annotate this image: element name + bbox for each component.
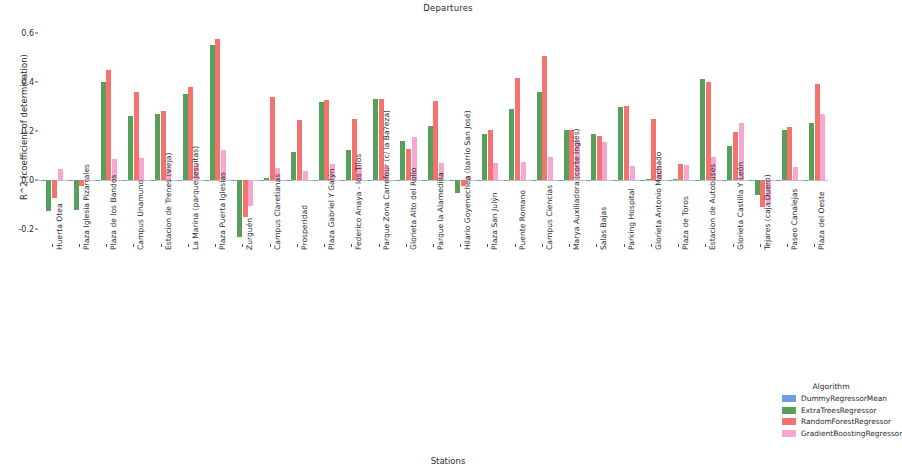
legend-label: DummyRegressorMean xyxy=(801,394,887,403)
x-axis-tick-mark xyxy=(324,244,325,247)
x-axis-tick-mark xyxy=(733,244,734,247)
x-axis-tick-mark xyxy=(542,244,543,247)
bar-DummyRegressorMean xyxy=(177,180,182,181)
bar-RandomForestRegressor xyxy=(624,106,629,181)
x-axis-tick-mark xyxy=(270,244,271,247)
bar-ExtraTreesRegressor xyxy=(673,179,678,180)
x-axis-tick-mark xyxy=(133,244,134,247)
x-axis-tick-mark xyxy=(297,244,298,247)
bar-DummyRegressorMean xyxy=(422,180,427,181)
legend-item[interactable]: RandomForestRegressor xyxy=(782,417,902,426)
x-axis-tick-label: Marya Auxiliadora (corte Inglés) xyxy=(572,128,581,250)
bar-RandomForestRegressor xyxy=(52,180,57,198)
x-axis-tick-mark xyxy=(161,244,162,247)
legend: Algorithm DummyRegressorMeanExtraTreesRe… xyxy=(782,382,902,440)
x-axis-tick-label: Federico Anaya - los Tilos xyxy=(354,154,363,250)
x-axis-tick-label: Puente Romano xyxy=(518,190,527,250)
legend-item[interactable]: DummyRegressorMean xyxy=(782,394,902,403)
x-axis-tick-label: La Marina (parque Jesuitas) xyxy=(191,146,200,250)
bar-DummyRegressorMean xyxy=(667,180,672,181)
bar-DummyRegressorMean xyxy=(722,180,727,181)
x-axis-tick-mark xyxy=(406,244,407,247)
bar-DummyRegressorMean xyxy=(504,180,509,181)
bar-GradientBoostingRegressor xyxy=(58,169,63,181)
bar-DummyRegressorMean xyxy=(286,180,291,181)
bar-ExtraTreesRegressor xyxy=(455,180,460,193)
chart-title: Departures xyxy=(0,3,896,13)
bar-DummyRegressorMean xyxy=(449,180,454,181)
bar-GradientBoostingRegressor xyxy=(793,167,798,180)
x-axis-tick-mark xyxy=(705,244,706,247)
bar-RandomForestRegressor xyxy=(678,164,683,181)
bar-DummyRegressorMean xyxy=(340,180,345,181)
bar-GradientBoostingRegressor xyxy=(248,180,253,206)
x-axis-tick-label: Paseo Canalejas xyxy=(790,188,799,250)
x-axis-tick-mark xyxy=(569,244,570,247)
x-axis-tick-mark xyxy=(433,244,434,247)
bar-ExtraTreesRegressor xyxy=(264,178,269,180)
x-axis-tick-label: Parking Hospital xyxy=(627,188,636,250)
legend-color-swatch xyxy=(782,430,796,437)
x-axis-tick-label: Plaza Puerta Iglesias xyxy=(218,172,227,250)
x-axis-tick-mark xyxy=(760,244,761,247)
legend-item[interactable]: ExtraTreesRegressor xyxy=(782,406,902,415)
bar-ExtraTreesRegressor xyxy=(809,123,814,180)
bar-DummyRegressorMean xyxy=(122,180,127,181)
x-axis-tick-label: Parque Zona Carrefour (c/ la Ba?eza) xyxy=(382,110,391,250)
y-axis-tick-mark xyxy=(35,82,38,83)
x-axis-tick-label: Plaza del Oeste xyxy=(817,191,826,250)
x-axis-tick-mark xyxy=(242,244,243,247)
x-axis-tick-label: Plaza Iglesia Pizarrales xyxy=(82,164,91,250)
bar-ExtraTreesRegressor xyxy=(400,141,405,180)
bar-RandomForestRegressor xyxy=(433,101,438,181)
x-axis-tick-label: Glorieta Castilla Y León xyxy=(736,162,745,250)
y-axis-tick-label: 0.0 xyxy=(21,176,34,185)
x-axis-tick-label: Zurguén xyxy=(245,218,254,250)
bar-DummyRegressorMean xyxy=(558,180,563,181)
bar-GradientBoostingRegressor xyxy=(548,157,553,180)
x-axis-tick-mark xyxy=(379,244,380,247)
bar-DummyRegressorMean xyxy=(231,180,236,181)
bar-ExtraTreesRegressor xyxy=(509,109,514,181)
bar-DummyRegressorMean xyxy=(803,180,808,181)
x-axis-tick-label: Hilario Goyenechea (barrio San José) xyxy=(463,110,472,250)
y-axis-tick-label: 0.4 xyxy=(21,78,34,87)
x-axis-tick-mark xyxy=(460,244,461,247)
bar-ExtraTreesRegressor xyxy=(237,180,242,237)
x-axis-tick-mark xyxy=(79,244,80,247)
bar-GradientBoostingRegressor xyxy=(493,163,498,181)
x-axis-tick-label: Huerta Otea xyxy=(55,203,64,250)
bar-ExtraTreesRegressor xyxy=(646,179,651,180)
bar-ExtraTreesRegressor xyxy=(618,107,623,180)
x-axis-tick-label: Estacion de Trenes (vieja) xyxy=(164,153,173,250)
y-axis-tick-label: 0.2 xyxy=(21,127,34,136)
legend-label: GradientBoostingRegressor xyxy=(801,429,902,438)
bar-ExtraTreesRegressor xyxy=(537,92,542,181)
bar-RandomForestRegressor xyxy=(815,84,820,180)
bar-RandomForestRegressor xyxy=(134,92,139,181)
bar-DummyRegressorMean xyxy=(749,180,754,181)
bar-ExtraTreesRegressor xyxy=(74,180,79,210)
x-axis-tick-label: Plaza de los Bandos xyxy=(109,174,118,250)
y-axis-tick-mark xyxy=(35,33,38,34)
legend-item[interactable]: GradientBoostingRegressor xyxy=(782,429,902,438)
bar-GradientBoostingRegressor xyxy=(602,142,607,180)
y-axis-tick-label: -0.2 xyxy=(18,225,34,234)
bar-RandomForestRegressor xyxy=(488,130,493,180)
x-axis-tick-mark xyxy=(52,244,53,247)
bar-ExtraTreesRegressor xyxy=(183,94,188,180)
x-axis-tick-mark xyxy=(814,244,815,247)
bar-DummyRegressorMean xyxy=(313,180,318,181)
bar-RandomForestRegressor xyxy=(542,56,547,180)
x-axis-label: Stations xyxy=(0,456,896,466)
bar-ExtraTreesRegressor xyxy=(291,152,296,180)
bar-DummyRegressorMean xyxy=(531,180,536,181)
bar-DummyRegressorMean xyxy=(204,180,209,181)
legend-title: Algorithm xyxy=(760,382,902,391)
legend-color-swatch xyxy=(782,395,796,402)
bar-RandomForestRegressor xyxy=(787,127,792,180)
bar-DummyRegressorMean xyxy=(150,180,155,181)
bar-DummyRegressorMean xyxy=(613,180,618,181)
bar-ExtraTreesRegressor xyxy=(128,116,133,180)
